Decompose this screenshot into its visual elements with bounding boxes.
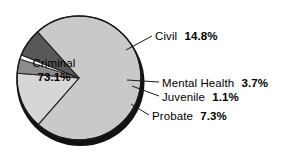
- slice-label-criminal-value: 73.1%: [18, 70, 90, 84]
- slice-label-mental-health: Mental Health 3.7%: [162, 77, 268, 90]
- slice-label-civil-value: 14.8%: [185, 30, 218, 42]
- slice-label-criminal-category: Criminal: [18, 56, 90, 70]
- slice-label-mental-health-category: Mental Health: [162, 77, 234, 89]
- slice-label-mental-health-value: 3.7%: [242, 77, 269, 89]
- slice-label-civil-category: Civil: [155, 30, 177, 42]
- slice-label-juvenile: Juvenile 1.1%: [162, 91, 239, 104]
- slice-label-juvenile-value: 1.1%: [212, 91, 239, 103]
- slice-label-probate-value: 7.3%: [200, 110, 227, 122]
- slice-label-criminal: Criminal 73.1%: [18, 56, 90, 84]
- slice-label-civil: Civil 14.8%: [155, 30, 218, 43]
- slice-label-juvenile-category: Juvenile: [162, 91, 205, 103]
- slice-label-probate: Probate 7.3%: [152, 110, 227, 123]
- slice-label-probate-category: Probate: [152, 110, 193, 122]
- pie-chart-figure: Criminal 73.1% Civil 14.8% Mental Health…: [0, 0, 284, 155]
